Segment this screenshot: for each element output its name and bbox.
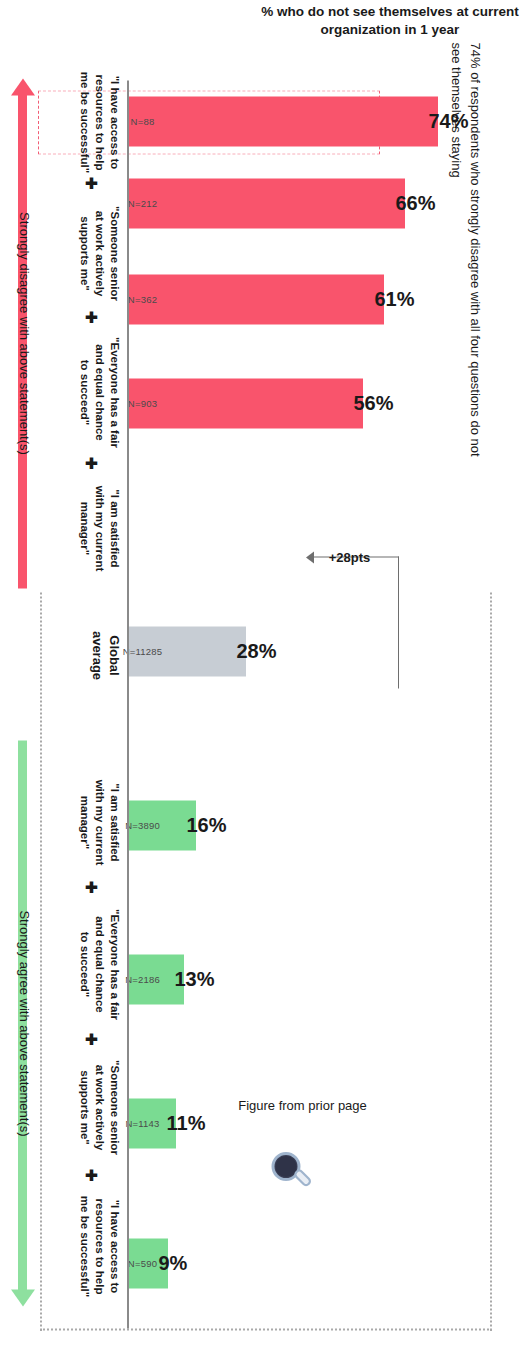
category-line: "Everyone has a fair [107,898,122,1030]
bar-column[interactable]: N=1143 11% [129,1098,500,1148]
bar-n-label: N=88 [131,116,155,127]
category-labels: "I have access to resources to help me b… [36,0,126,1367]
category-label: "Everyone has a fair and equal chance to… [77,326,122,458]
category-line: manager" [77,766,92,878]
category-line: to succeed" [77,326,92,458]
bar-column[interactable]: N=3890 16% [129,800,500,850]
bar-value-label: 74% [429,110,489,133]
disagree-direction-arrow: Strongly disagree with above statement(s… [4,78,38,588]
bar-column[interactable]: N=2186 13% [129,954,500,1004]
category-line: with my current [92,766,107,878]
category-line: "I have access to [107,62,122,182]
bar-n-label: N=590 [128,1258,157,1269]
category-label: "I have access to resources to help me b… [77,62,122,182]
category-line: and equal chance [92,326,107,458]
category-label: "I have access to resources to help me b… [77,1186,122,1306]
category-line: Global [105,608,122,702]
bar-value-label: 11% [167,1112,227,1135]
category-label: "Someone senior at work actively support… [77,194,122,312]
plus-separator-icon: ✚ [82,176,100,189]
bar-column[interactable]: N=590 9% [129,1238,500,1288]
category-label: "Someone senior at work actively support… [77,1048,122,1166]
bar-value-label: 16% [187,814,247,837]
bar-value-label: 61% [375,288,435,311]
plus-separator-icon: ✚ [82,880,100,893]
bar-value-label: 13% [175,968,235,991]
category-label-global-average: Global average [88,608,122,702]
category-line: "Someone senior [107,1048,122,1166]
category-label: "Everyone has a fair and equal chance to… [77,898,122,1030]
bar-n-label: N=1143 [125,1118,159,1129]
agree-direction-arrow: Strongly agree with above statement(s) [4,740,38,1306]
bar-column[interactable]: N=88 74% [129,96,500,146]
category-line: at work actively [92,194,107,312]
bar-n-label: N=362 [128,294,157,305]
bar-n-label: N=903 [128,398,157,409]
bar-n-label: N=3890 [125,820,160,831]
agree-arrow-label: Strongly agree with above statement(s) [17,740,32,1306]
bar-value-label: 9% [159,1252,219,1275]
x-axis-baseline [128,80,130,1328]
category-line: "I have access to [107,1186,122,1306]
bars-layer: N=88 74% N=212 66% N=362 61% N=903 56% [129,0,500,1367]
category-line: to succeed" [77,898,92,1030]
category-line: me be successful" [77,1186,92,1306]
plus-separator-icon: ✚ [82,1032,100,1045]
category-line: average [88,608,105,702]
bar-column[interactable]: N=212 66% [129,178,500,228]
category-line: "Someone senior [107,194,122,312]
bar-n-label: N=2186 [125,974,160,985]
category-line: at work actively [92,1048,107,1166]
category-line: "I am satisfied [107,766,122,878]
plus-separator-icon: ✚ [82,1168,100,1181]
category-line: and equal chance [92,898,107,1030]
category-line: "I am satisfied [107,472,122,584]
category-line: manager" [77,472,92,584]
category-line: with my current [92,472,107,584]
bar-column[interactable]: N=903 56% [129,378,500,428]
disagree-arrow-label: Strongly disagree with above statement(s… [17,78,32,588]
plus-separator-icon: ✚ [82,456,100,469]
category-line: supports me" [77,1048,92,1166]
category-line: resources to help [92,1186,107,1306]
category-label: "I am satisfied with my current manager" [77,472,122,584]
bar-n-label: N=212 [128,198,157,209]
category-line: resources to help [92,62,107,182]
category-line: supports me" [77,194,92,312]
bar-value-label: 66% [396,192,456,215]
plus-separator-icon: ✚ [82,310,100,323]
bar-column[interactable]: N=362 61% [129,274,500,324]
category-line: me be successful" [77,62,92,182]
category-label: "I am satisfied with my current manager" [77,766,122,878]
bar-value-label: 56% [354,392,414,415]
bar-column-global-average[interactable]: N=11285 28% [129,626,500,676]
bar-value-label: 28% [237,640,297,663]
category-line: "Everyone has a fair [107,326,122,458]
